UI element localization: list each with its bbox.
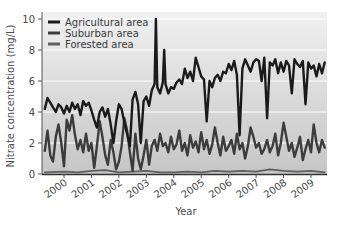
x-tick-label: 2008 [262,177,289,201]
y-axis-ticks: 0246810 [22,14,42,180]
legend-label: Forested area [65,39,134,50]
x-tick-label: 2007 [234,177,261,201]
x-tick-label: 2001 [69,177,96,201]
x-tick-label: 2009 [289,177,316,201]
legend-label: Agricultural area [65,17,148,28]
x-tick-label: 2002 [97,177,124,201]
y-tick-label: 4 [29,107,35,118]
x-tick-label: 2005 [179,177,206,201]
x-tick-label: 2000 [42,177,69,201]
x-axis-ticks: 2000200120022003200420052006200720082009 [42,174,316,200]
legend-label: Suburban area [65,28,139,39]
y-tick-label: 8 [29,45,35,56]
y-axis-title: Nitrate concentration (mg/L) [5,24,16,167]
x-axis-title: Year [174,206,197,217]
y-tick-label: 2 [29,138,35,149]
y-tick-label: 0 [29,169,35,180]
y-tick-label: 6 [29,76,35,87]
nitrate-line-chart: 0246810 20002001200220032004200520062007… [0,0,338,226]
x-tick-label: 2006 [207,177,234,201]
x-tick-label: 2004 [152,177,179,201]
y-tick-label: 10 [22,14,35,25]
x-tick-label: 2003 [124,177,151,201]
